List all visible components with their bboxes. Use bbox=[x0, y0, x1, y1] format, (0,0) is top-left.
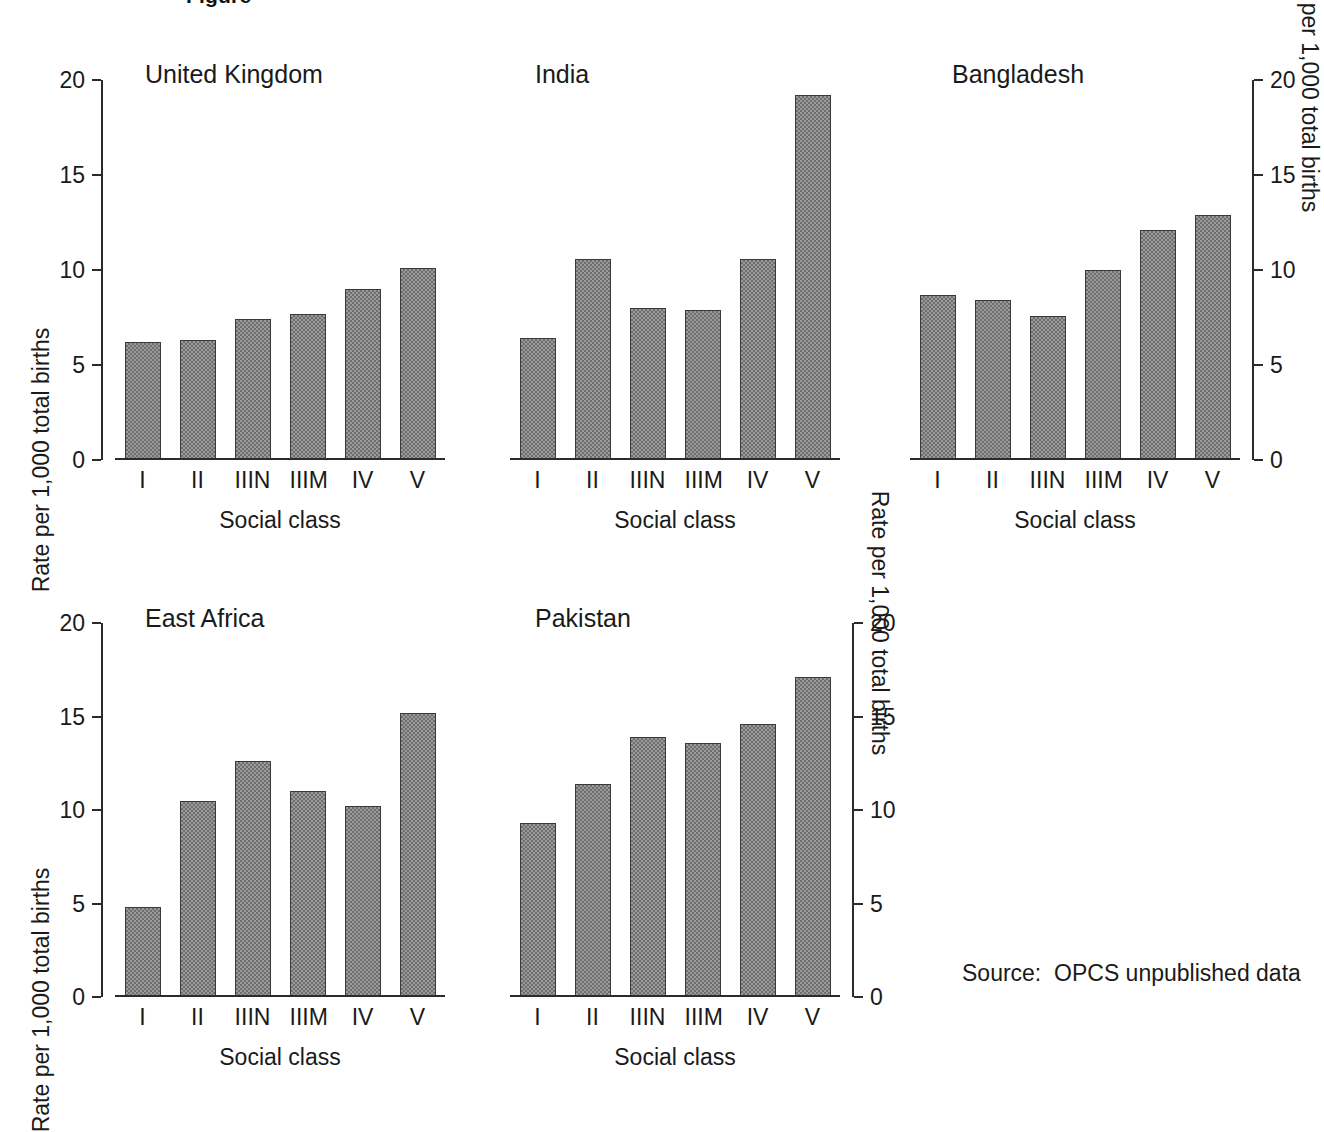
y-axis-tick-label: 0 bbox=[72, 986, 85, 1009]
y-axis-tick-label: 20 bbox=[870, 612, 896, 635]
bar-v[interactable] bbox=[1195, 215, 1231, 460]
x-axis-tick-label: V bbox=[1195, 469, 1231, 492]
bar-v[interactable] bbox=[400, 713, 436, 997]
bar-iiim[interactable] bbox=[290, 791, 326, 997]
y-axis-tick-label: 10 bbox=[870, 799, 896, 822]
x-axis-tick-label: II bbox=[180, 1006, 216, 1029]
y-axis-tick-label: 15 bbox=[59, 705, 85, 728]
bar-slot bbox=[685, 623, 721, 997]
bar-slot bbox=[345, 623, 381, 997]
source-note: Source: OPCS unpublished data bbox=[962, 962, 1301, 985]
bar-i[interactable] bbox=[520, 823, 556, 997]
y-axis-tick bbox=[92, 716, 101, 718]
bar-v[interactable] bbox=[795, 95, 831, 460]
x-axis-tick-labels: IIIIIINIIIMIVV bbox=[510, 1006, 840, 1029]
bar-slot bbox=[1085, 80, 1121, 460]
y-axis-tick-label: 0 bbox=[1270, 449, 1283, 472]
bar-iv[interactable] bbox=[740, 259, 776, 460]
x-axis-tick-label: IIIN bbox=[630, 469, 666, 492]
y-axis-tick bbox=[92, 996, 101, 998]
bar-iv[interactable] bbox=[345, 289, 381, 460]
bar-iv[interactable] bbox=[1140, 230, 1176, 460]
bar-ii[interactable] bbox=[575, 784, 611, 997]
x-axis-line bbox=[510, 458, 840, 460]
bar-iiin[interactable] bbox=[235, 761, 271, 997]
bar-slot bbox=[740, 623, 776, 997]
bar-slot bbox=[235, 80, 271, 460]
bar-i[interactable] bbox=[920, 295, 956, 460]
x-axis-tick-label: II bbox=[575, 1006, 611, 1029]
bar-iv[interactable] bbox=[740, 724, 776, 997]
bar-iv[interactable] bbox=[345, 806, 381, 997]
x-axis-tick-label: IIIM bbox=[685, 469, 721, 492]
y-axis-tick-label: 20 bbox=[1270, 69, 1296, 92]
bar-group bbox=[910, 80, 1240, 460]
x-axis-tick-labels: IIIIIINIIIMIVV bbox=[510, 469, 840, 492]
bar-slot bbox=[920, 80, 956, 460]
x-axis-tick-label: I bbox=[520, 469, 556, 492]
plot-inner: 05101520IIIIIINIIIMIVVSocial class bbox=[115, 80, 445, 460]
x-axis-title: Social class bbox=[910, 509, 1240, 532]
y-axis-tick-label: 5 bbox=[72, 892, 85, 915]
y-axis-tick-label: 20 bbox=[59, 612, 85, 635]
x-axis-tick-label: IIIN bbox=[1030, 469, 1066, 492]
y-axis-tick bbox=[1254, 269, 1263, 271]
x-axis-tick-label: II bbox=[975, 469, 1011, 492]
bar-ii[interactable] bbox=[575, 259, 611, 460]
bar-group bbox=[510, 623, 840, 997]
y-axis-tick bbox=[92, 364, 101, 366]
plot-inner: 05101520IIIIIINIIIMIVVSocial class bbox=[510, 623, 840, 997]
panel-east-africa: East Africa Rate per 1,000 total births … bbox=[0, 540, 450, 1101]
y-axis-tick bbox=[1254, 79, 1263, 81]
y-axis-tick bbox=[92, 903, 101, 905]
bar-slot bbox=[1030, 80, 1066, 460]
bar-iiim[interactable] bbox=[685, 310, 721, 460]
bar-i[interactable] bbox=[125, 907, 161, 997]
y-axis-tick bbox=[854, 996, 863, 998]
x-axis-tick-label: V bbox=[795, 469, 831, 492]
bar-v[interactable] bbox=[795, 677, 831, 997]
bar-i[interactable] bbox=[125, 342, 161, 460]
y-axis-title-east-africa: Rate per 1,000 total births bbox=[30, 868, 53, 1132]
bar-iiim[interactable] bbox=[685, 743, 721, 997]
y-axis-tick-label: 0 bbox=[72, 449, 85, 472]
bar-iiim[interactable] bbox=[1085, 270, 1121, 460]
x-axis-tick-label: V bbox=[400, 469, 436, 492]
bar-slot bbox=[125, 623, 161, 997]
bar-iiin[interactable] bbox=[1030, 316, 1066, 460]
y-axis-tick bbox=[1254, 459, 1263, 461]
bar-ii[interactable] bbox=[180, 340, 216, 460]
bar-iiim[interactable] bbox=[290, 314, 326, 460]
bar-slot bbox=[1140, 80, 1176, 460]
x-axis-tick-label: V bbox=[795, 1006, 831, 1029]
plot-area-pakistan: 05101520IIIIIINIIIMIVVSocial class bbox=[510, 623, 840, 997]
bar-group bbox=[115, 623, 445, 997]
x-axis-tick-label: IV bbox=[1140, 469, 1176, 492]
bar-slot bbox=[520, 623, 556, 997]
x-axis-tick-label: IIIM bbox=[685, 1006, 721, 1029]
y-axis-tick-label: 10 bbox=[59, 799, 85, 822]
bar-iiin[interactable] bbox=[235, 319, 271, 460]
bar-i[interactable] bbox=[520, 338, 556, 460]
y-axis-tick-label: 15 bbox=[59, 164, 85, 187]
y-axis-tick bbox=[92, 809, 101, 811]
x-axis-line bbox=[910, 458, 1240, 460]
bar-iiin[interactable] bbox=[630, 737, 666, 997]
bar-group bbox=[510, 80, 840, 460]
x-axis-tick-label: IIIN bbox=[630, 1006, 666, 1029]
bar-v[interactable] bbox=[400, 268, 436, 460]
bar-ii[interactable] bbox=[975, 300, 1011, 460]
x-axis-title: Social class bbox=[115, 1046, 445, 1069]
bar-slot bbox=[575, 623, 611, 997]
bar-ii[interactable] bbox=[180, 801, 216, 997]
y-axis-tick bbox=[854, 903, 863, 905]
y-axis-tick bbox=[92, 174, 101, 176]
bar-slot bbox=[795, 623, 831, 997]
y-axis-tick bbox=[854, 716, 863, 718]
y-axis-tick-label: 15 bbox=[1270, 164, 1296, 187]
x-axis-tick-label: IIIM bbox=[290, 469, 326, 492]
plot-area-india: IIIIIINIIIMIVVSocial class bbox=[510, 80, 840, 460]
bar-iiin[interactable] bbox=[630, 308, 666, 460]
x-axis-tick-label: II bbox=[180, 469, 216, 492]
x-axis-tick-label: I bbox=[125, 469, 161, 492]
